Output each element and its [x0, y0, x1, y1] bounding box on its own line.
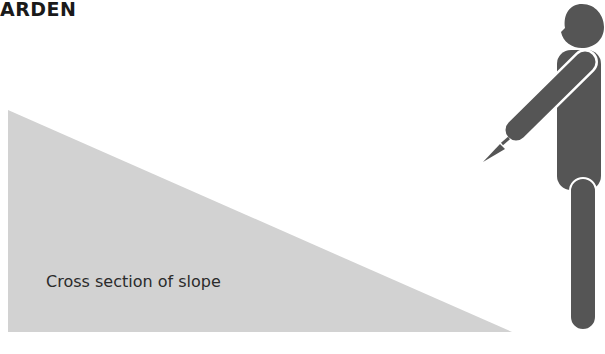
slope-label: Cross section of slope — [46, 272, 221, 291]
trowel-icon — [483, 138, 509, 162]
person-head — [561, 4, 604, 48]
diagram-canvas — [0, 0, 605, 354]
person-leg — [570, 178, 596, 330]
person-figure — [483, 4, 604, 330]
slope-cross-section — [8, 110, 512, 332]
